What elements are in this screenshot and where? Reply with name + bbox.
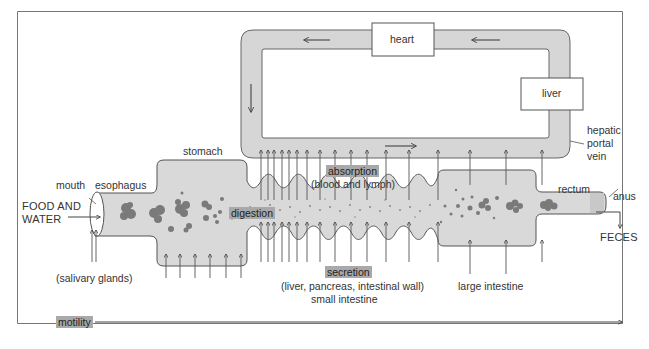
food-water-label-2: WATER — [22, 213, 62, 226]
salivary-label: (salivary glands) — [56, 272, 132, 284]
esophagus-label: esophagus — [95, 179, 146, 191]
digestion-label: digestion — [229, 207, 275, 219]
anus-label: anus — [613, 190, 636, 202]
feces-label: FECES — [600, 231, 638, 244]
secretion-detail: (liver, pancreas, intestinal wall) — [281, 280, 424, 292]
small-intestine-label: small intestine — [311, 293, 378, 305]
food-water-label-1: FOOD AND — [22, 200, 81, 213]
absorption-label: absorption — [326, 165, 379, 177]
vein-label-1: hepatic — [587, 124, 621, 136]
vein-label-2: portal — [587, 137, 613, 149]
liver-label: liver — [542, 87, 561, 99]
rectum-label: rectum — [558, 183, 590, 195]
stomach-label: stomach — [183, 145, 223, 157]
vein-label-3: vein — [587, 150, 606, 162]
absorption-detail: (blood and lymph) — [311, 178, 395, 190]
heart-label: heart — [390, 33, 414, 45]
secretion-label: secretion — [325, 266, 372, 278]
vein-leader — [570, 141, 584, 144]
motility-label: motility — [56, 316, 93, 328]
large-intestine-label: large intestine — [458, 280, 523, 292]
mouth-opening — [90, 192, 104, 236]
mouth-label: mouth — [56, 179, 85, 191]
